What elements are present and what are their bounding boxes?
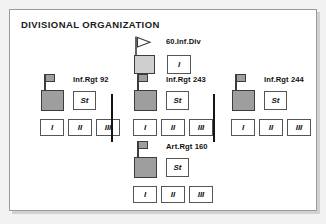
chart-panel: DIVISIONAL ORGANIZATION 60.Inf.Div I Inf… <box>9 9 317 211</box>
battalion-box-1[interactable]: I <box>40 119 64 136</box>
staff-box[interactable]: St <box>166 91 189 110</box>
regiment-flag-icon <box>137 74 148 82</box>
division-hq-symbol <box>134 55 155 74</box>
staff-box[interactable]: St <box>264 91 287 110</box>
division-subunit-box[interactable]: I <box>167 55 191 74</box>
regiment-flag-icon <box>137 141 148 149</box>
regiment-inf-243[interactable]: Inf.Rgt 243 St I II III <box>134 74 230 136</box>
staff-box[interactable]: St <box>73 91 96 110</box>
battalion-box-3[interactable]: III <box>96 119 120 136</box>
division-label: 60.Inf.Div <box>166 37 201 46</box>
staff-box[interactable]: St <box>166 158 189 177</box>
battalion-box-2[interactable]: II <box>161 119 185 136</box>
regiment-art-160[interactable]: Art.Rgt 160 St I II III <box>134 141 230 203</box>
regiment-label: Inf.Rgt 244 <box>264 75 304 84</box>
regiment-label: Inf.Rgt 243 <box>166 75 206 84</box>
battalion-box-3[interactable]: III <box>189 119 213 136</box>
battalion-box-2[interactable]: II <box>259 119 283 136</box>
divisional-organization-chart: DIVISIONAL ORGANIZATION 60.Inf.Div I Inf… <box>0 0 326 224</box>
regiment-label: Inf.Rgt 92 <box>73 75 109 84</box>
column-divider-right <box>213 94 215 142</box>
regiment-hq-symbol <box>41 90 64 111</box>
battalion-box-2[interactable]: II <box>68 119 92 136</box>
page-title: DIVISIONAL ORGANIZATION <box>21 19 160 30</box>
regiment-hq-symbol <box>134 90 157 111</box>
battalion-box-1[interactable]: I <box>231 119 255 136</box>
regiment-flag-icon <box>235 74 246 82</box>
battalion-box-1[interactable]: I <box>133 186 157 203</box>
regiment-hq-symbol <box>232 90 255 111</box>
regiment-flag-icon <box>44 74 55 82</box>
battalion-box-3[interactable]: III <box>287 119 311 136</box>
regiment-label: Art.Rgt 160 <box>166 142 208 151</box>
battalion-box-2[interactable]: II <box>161 186 185 203</box>
regiment-hq-symbol <box>134 157 157 178</box>
regiment-inf-92[interactable]: Inf.Rgt 92 St I II III <box>41 74 131 136</box>
battalion-box-1[interactable]: I <box>133 119 157 136</box>
regiment-inf-244[interactable]: Inf.Rgt 244 St I II III <box>232 74 322 136</box>
column-divider-left <box>111 94 113 142</box>
division-unit[interactable]: 60.Inf.Div I <box>134 36 234 78</box>
battalion-box-3[interactable]: III <box>189 186 213 203</box>
